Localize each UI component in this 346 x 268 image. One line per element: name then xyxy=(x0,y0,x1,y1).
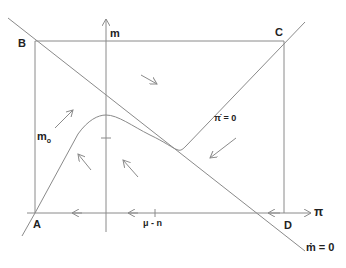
m0-label-sub: o xyxy=(47,137,51,144)
pi-axis-label: π xyxy=(314,206,323,218)
arrow-southeast xyxy=(141,75,157,84)
mu-minus-n-label: μ - n xyxy=(143,219,162,228)
corner-label-a: A xyxy=(33,219,41,230)
corner-label-d: D xyxy=(284,220,292,231)
diagram-canvas xyxy=(0,0,346,268)
phase-diagram: B C A D m π mo μ - n π̇ = 0 ṁ = 0 xyxy=(0,0,346,268)
arrow-northeast xyxy=(55,110,73,128)
m-axis-label: m xyxy=(110,28,120,39)
m-dot-zero-label: ṁ = 0 xyxy=(306,242,334,253)
corner-label-b: B xyxy=(18,38,26,49)
arrow-northwest-center xyxy=(123,160,138,177)
m0-label-main: m xyxy=(37,130,47,142)
pi-dot-zero-label: π̇ = 0 xyxy=(214,114,236,123)
bounding-rectangle xyxy=(35,41,284,213)
m-dot-zero-locus xyxy=(8,18,305,251)
arrow-northwest-left xyxy=(78,154,91,170)
arrow-southwest xyxy=(210,138,236,158)
pi-dot-zero-locus xyxy=(22,22,305,236)
corner-label-c: C xyxy=(275,27,283,38)
m0-label: mo xyxy=(37,131,51,142)
